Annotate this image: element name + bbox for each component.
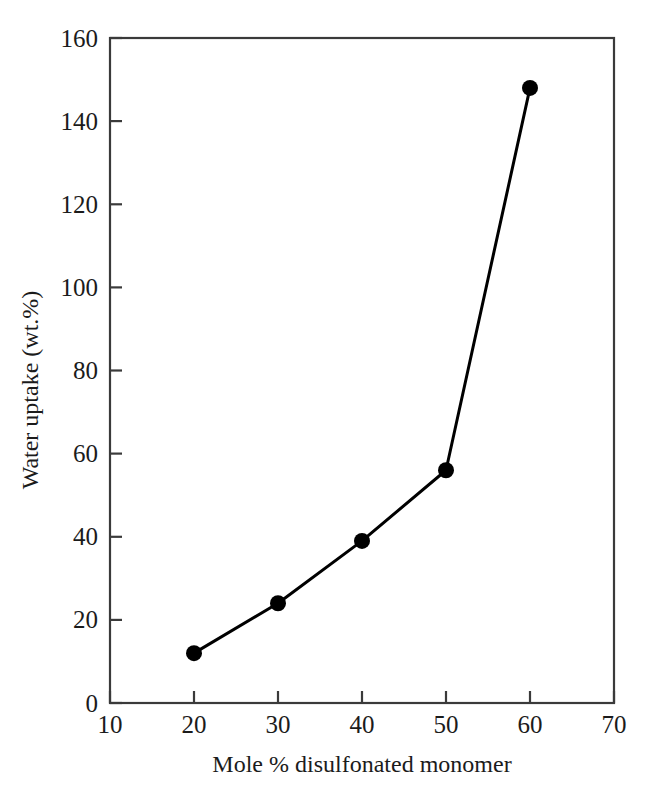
y-tick-label: 160 <box>61 25 99 52</box>
x-tick-label: 50 <box>434 711 459 738</box>
x-tick-label: 40 <box>350 711 375 738</box>
data-point <box>522 80 538 96</box>
y-tick-label: 100 <box>61 274 99 301</box>
data-point <box>354 533 370 549</box>
y-tick-label: 140 <box>61 108 99 135</box>
x-axis-title: Mole % disulfonated monomer <box>212 751 511 777</box>
y-tick-label: 80 <box>73 357 98 384</box>
line-chart: 10 20 30 40 50 60 70 0 20 40 60 80 100 1… <box>0 0 651 792</box>
x-tick-label: 20 <box>182 711 207 738</box>
y-tick-label: 60 <box>73 440 98 467</box>
y-tick-label: 120 <box>61 191 99 218</box>
y-tick-label: 40 <box>73 523 98 550</box>
data-point <box>186 645 202 661</box>
data-point <box>270 595 286 611</box>
x-tick-label: 30 <box>266 711 291 738</box>
data-point <box>438 462 454 478</box>
x-tick-label: 70 <box>602 711 627 738</box>
x-tick-label: 10 <box>98 711 123 738</box>
x-tick-label: 60 <box>518 711 543 738</box>
y-tick-label: 20 <box>73 606 98 633</box>
y-axis-title: Water uptake (wt.%) <box>17 291 43 490</box>
chart-figure: 10 20 30 40 50 60 70 0 20 40 60 80 100 1… <box>0 0 651 792</box>
y-tick-label: 0 <box>86 690 99 717</box>
